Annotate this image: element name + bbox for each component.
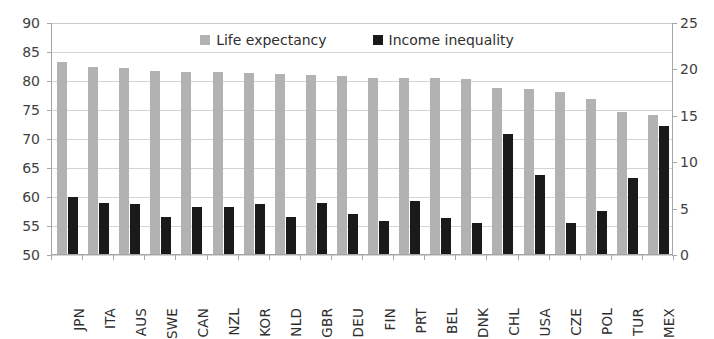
bar-group bbox=[337, 23, 358, 255]
right-axis-tick-label: 20 bbox=[680, 62, 710, 76]
category-tick bbox=[549, 255, 550, 260]
bar-group bbox=[648, 23, 669, 255]
bar-income-inequality[interactable] bbox=[472, 223, 482, 255]
bar-life-expectancy[interactable] bbox=[88, 67, 98, 255]
bar-life-expectancy[interactable] bbox=[492, 88, 502, 255]
bar-group bbox=[213, 23, 234, 255]
bar-life-expectancy[interactable] bbox=[150, 71, 160, 255]
category-ticks bbox=[51, 255, 673, 261]
category-tick bbox=[113, 255, 114, 260]
category-label-gbr: GBR bbox=[321, 308, 335, 338]
bar-group bbox=[244, 23, 265, 255]
right-axis-tick bbox=[672, 23, 677, 24]
category-tick bbox=[424, 255, 425, 260]
bar-income-inequality[interactable] bbox=[348, 214, 358, 255]
bar-income-inequality[interactable] bbox=[224, 207, 234, 255]
right-axis-tick bbox=[672, 162, 677, 163]
right-axis-tick bbox=[672, 69, 677, 70]
category-tick bbox=[331, 255, 332, 260]
bar-income-inequality[interactable] bbox=[286, 217, 296, 255]
bar-income-inequality[interactable] bbox=[192, 207, 202, 255]
category-label-kor: KOR bbox=[259, 308, 273, 337]
bar-group bbox=[150, 23, 171, 255]
bar-income-inequality[interactable] bbox=[659, 126, 669, 255]
bar-life-expectancy[interactable] bbox=[399, 78, 409, 255]
bar-life-expectancy[interactable] bbox=[119, 68, 129, 255]
left-axis-tick bbox=[47, 81, 52, 82]
category-label-ita: ITA bbox=[104, 308, 118, 329]
bar-income-inequality[interactable] bbox=[68, 197, 78, 255]
left-axis-tick-label: 70 bbox=[8, 132, 40, 146]
bar-life-expectancy[interactable] bbox=[648, 115, 658, 255]
bar-group bbox=[586, 23, 607, 255]
category-tick bbox=[207, 255, 208, 260]
left-axis-tick bbox=[47, 52, 52, 53]
category-label-aus: AUS bbox=[135, 308, 149, 336]
bar-life-expectancy[interactable] bbox=[244, 73, 254, 255]
category-label-chl: CHL bbox=[508, 308, 522, 336]
bar-income-inequality[interactable] bbox=[130, 204, 140, 255]
bar-income-inequality[interactable] bbox=[255, 204, 265, 255]
bar-groups bbox=[52, 23, 672, 255]
left-axis-tick bbox=[47, 226, 52, 227]
bar-group bbox=[524, 23, 545, 255]
bar-group bbox=[306, 23, 327, 255]
bar-life-expectancy[interactable] bbox=[337, 76, 347, 255]
left-axis-tick bbox=[47, 110, 52, 111]
bar-life-expectancy[interactable] bbox=[275, 74, 285, 255]
bar-life-expectancy[interactable] bbox=[461, 79, 471, 255]
bar-income-inequality[interactable] bbox=[379, 221, 389, 255]
left-axis-tick bbox=[47, 168, 52, 169]
bar-group bbox=[57, 23, 78, 255]
bar-income-inequality[interactable] bbox=[597, 211, 607, 255]
bar-life-expectancy[interactable] bbox=[430, 78, 440, 255]
bar-income-inequality[interactable] bbox=[410, 201, 420, 255]
bar-group bbox=[461, 23, 482, 255]
bar-income-inequality[interactable] bbox=[441, 218, 451, 255]
category-label-dnk: DNK bbox=[477, 308, 491, 338]
bar-income-inequality[interactable] bbox=[161, 217, 171, 255]
bar-group bbox=[119, 23, 140, 255]
bar-group bbox=[88, 23, 109, 255]
bar-group bbox=[368, 23, 389, 255]
right-axis-tick-label: 15 bbox=[680, 109, 710, 123]
bar-income-inequality[interactable] bbox=[535, 175, 545, 255]
left-axis-tick bbox=[47, 23, 52, 24]
category-tick bbox=[580, 255, 581, 260]
bar-income-inequality[interactable] bbox=[628, 178, 638, 255]
bar-income-inequality[interactable] bbox=[566, 223, 576, 255]
left-axis-tick bbox=[47, 139, 52, 140]
bar-life-expectancy[interactable] bbox=[213, 72, 223, 255]
legend-item-income-inequality[interactable]: Income inequality bbox=[373, 33, 514, 47]
legend-item-life-expectancy[interactable]: Life expectancy bbox=[200, 33, 326, 47]
category-label-bel: BEL bbox=[446, 308, 460, 334]
bar-life-expectancy[interactable] bbox=[524, 89, 534, 255]
category-tick bbox=[175, 255, 176, 260]
bar-income-inequality[interactable] bbox=[503, 134, 513, 255]
left-axis-tick bbox=[47, 197, 52, 198]
left-axis-tick-label: 55 bbox=[8, 219, 40, 233]
bar-income-inequality[interactable] bbox=[99, 203, 109, 255]
left-axis-tick-label: 60 bbox=[8, 190, 40, 204]
legend-label-income-inequality: Income inequality bbox=[389, 33, 514, 47]
bar-life-expectancy[interactable] bbox=[368, 78, 378, 255]
bar-life-expectancy[interactable] bbox=[555, 92, 565, 255]
bar-group bbox=[492, 23, 513, 255]
bar-life-expectancy[interactable] bbox=[617, 112, 627, 255]
bar-income-inequality[interactable] bbox=[317, 203, 327, 255]
category-label-jpn: JPN bbox=[73, 308, 87, 331]
bar-life-expectancy[interactable] bbox=[306, 75, 316, 255]
category-label-nld: NLD bbox=[290, 308, 304, 337]
bar-life-expectancy[interactable] bbox=[181, 72, 191, 255]
right-axis-tick-label: 25 bbox=[680, 16, 710, 30]
category-label-deu: DEU bbox=[352, 308, 366, 337]
bar-life-expectancy[interactable] bbox=[57, 62, 67, 255]
bar-life-expectancy[interactable] bbox=[586, 99, 596, 255]
bar-group bbox=[399, 23, 420, 255]
category-label-usa: USA bbox=[539, 308, 553, 337]
category-tick bbox=[362, 255, 363, 260]
category-tick bbox=[269, 255, 270, 260]
left-axis-tick-label: 65 bbox=[8, 161, 40, 175]
category-label-fin: FIN bbox=[384, 308, 398, 330]
